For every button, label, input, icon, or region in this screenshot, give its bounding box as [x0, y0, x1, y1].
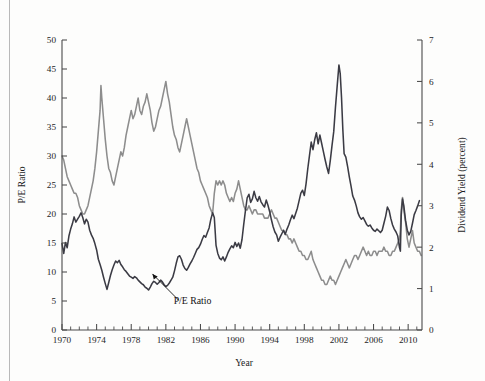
- right-tick-label: 1: [429, 284, 434, 294]
- x-tick-label: 1982: [157, 335, 176, 345]
- x-tick-label: 1990: [226, 335, 245, 345]
- right-tick-label: 6: [429, 77, 434, 87]
- right-tick-label: 2: [429, 243, 434, 253]
- left-axis-ticks: 05101520253035404550: [47, 35, 67, 335]
- right-tick-label: 5: [429, 118, 434, 128]
- x-tick-label: 1998: [295, 335, 314, 345]
- axes-group: [62, 40, 422, 330]
- right-axis-ticks: 01234567: [417, 35, 434, 335]
- x-tick-label: 1978: [122, 335, 141, 345]
- left-tick-label: 5: [51, 296, 56, 306]
- series-annotations: Dividend YieldP/E Ratio: [152, 0, 239, 306]
- left-tick-label: 20: [47, 209, 57, 219]
- left-tick-label: 30: [47, 151, 57, 161]
- left-tick-label: 45: [47, 64, 57, 74]
- left-tick-label: 15: [47, 238, 57, 248]
- x-tick-label: 2002: [330, 335, 349, 345]
- x-tick-label: 1994: [261, 335, 280, 345]
- x-tick-label: 1970: [53, 335, 72, 345]
- pe-ratio-dividend-yield-chart: 05101520253035404550 01234567 1970197419…: [0, 0, 485, 381]
- x-tick-label: 2010: [399, 335, 418, 345]
- y-axis-title: P/E Ratio: [16, 166, 27, 203]
- annotation-arrow-line: [152, 274, 178, 300]
- left-tick-label: 0: [51, 325, 56, 335]
- right-tick-label: 3: [429, 201, 434, 211]
- right-tick-label: 4: [429, 160, 434, 170]
- left-tick-label: 10: [47, 267, 57, 277]
- x-axis-ticks: 1970197419781982198619901994199820022006…: [53, 324, 418, 345]
- left-tick-label: 25: [47, 180, 57, 190]
- left-tick-label: 35: [47, 122, 57, 132]
- left-tick-label: 50: [47, 35, 57, 45]
- y2-axis-title: Dividend Yield (percent): [456, 137, 468, 233]
- left-tick-label: 40: [47, 93, 57, 103]
- annotation-label: P/E Ratio: [174, 295, 212, 306]
- x-tick-label: 1974: [87, 335, 106, 345]
- x-tick-label: 2006: [364, 335, 383, 345]
- dividend-yield-series: [62, 81, 421, 284]
- right-tick-label: 0: [429, 325, 434, 335]
- right-tick-label: 7: [429, 35, 434, 45]
- chart-canvas: 05101520253035404550 01234567 1970197419…: [0, 0, 485, 381]
- dividend-yield-line: [62, 81, 421, 284]
- x-axis-title: Year: [235, 357, 253, 368]
- x-tick-label: 1986: [191, 335, 210, 345]
